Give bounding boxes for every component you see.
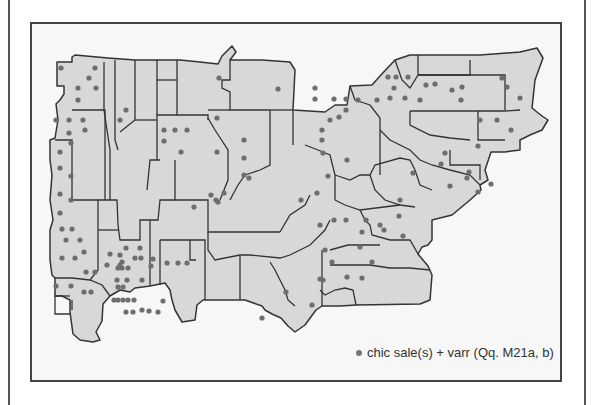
data-point: [359, 275, 364, 280]
data-point: [317, 276, 322, 281]
data-point: [58, 65, 63, 70]
data-point: [88, 289, 93, 294]
data-point: [120, 284, 125, 289]
data-point: [86, 75, 91, 80]
data-point: [120, 297, 125, 302]
data-point: [125, 265, 130, 270]
data-point: [69, 226, 74, 231]
data-point: [363, 217, 368, 222]
data-point: [359, 229, 364, 234]
data-point: [381, 227, 386, 232]
legend-text: chic sale(s) + varr (Qq. M21a, b): [367, 345, 554, 360]
data-point: [72, 255, 77, 260]
data-point: [298, 197, 303, 202]
data-point: [449, 87, 454, 92]
data-point: [329, 259, 334, 264]
data-point: [161, 127, 166, 132]
data-point: [125, 297, 130, 302]
data-point: [402, 95, 407, 100]
data-point: [319, 127, 324, 132]
data-point: [117, 252, 122, 257]
data-point: [447, 183, 452, 188]
data-point: [423, 82, 428, 87]
data-point: [92, 65, 97, 70]
data-point: [432, 81, 437, 86]
data-point: [184, 127, 189, 132]
data-point: [283, 289, 288, 294]
data-point: [343, 217, 348, 222]
data-point: [138, 255, 143, 260]
data-point: [259, 315, 264, 320]
data-point: [221, 190, 226, 195]
data-point: [68, 197, 73, 202]
data-point: [214, 149, 219, 154]
data-point: [517, 95, 522, 100]
data-point: [241, 172, 246, 177]
data-point: [75, 85, 80, 90]
data-point: [130, 309, 135, 314]
data-point: [458, 97, 463, 102]
data-point: [320, 150, 325, 155]
data-point: [111, 297, 116, 302]
data-point: [57, 149, 62, 154]
data-point: [504, 84, 509, 89]
data-point: [81, 249, 86, 254]
data-point: [117, 262, 122, 267]
data-point: [393, 74, 398, 79]
data-point: [68, 173, 73, 178]
data-point: [184, 260, 189, 265]
data-point: [499, 75, 504, 80]
data-point: [275, 86, 280, 91]
data-point: [123, 309, 128, 314]
data-point: [160, 298, 165, 303]
data-point: [146, 308, 151, 313]
legend-dot-icon: [356, 350, 362, 356]
data-point: [464, 175, 469, 180]
data-point: [317, 222, 322, 227]
data-point: [57, 165, 62, 170]
data-point: [75, 97, 80, 102]
data-point: [93, 85, 98, 90]
data-point: [81, 289, 86, 294]
data-point: [466, 169, 471, 174]
data-point: [92, 269, 97, 274]
data-point: [123, 107, 128, 112]
data-point: [178, 149, 183, 154]
data-point: [214, 115, 219, 120]
data-point: [344, 157, 349, 162]
data-point: [325, 173, 330, 178]
data-point: [208, 192, 213, 197]
data-point: [327, 117, 332, 122]
data-point: [494, 117, 499, 122]
data-point: [475, 189, 480, 194]
data-point: [132, 255, 137, 260]
data-point: [53, 117, 58, 122]
data-point: [57, 191, 62, 196]
data-point: [172, 127, 177, 132]
data-point: [438, 161, 443, 166]
data-point: [369, 259, 374, 264]
data-point: [442, 150, 447, 155]
data-point: [123, 245, 128, 250]
data-point: [343, 96, 348, 101]
data-point: [155, 309, 160, 314]
data-point: [115, 284, 120, 289]
data-point: [83, 269, 88, 274]
data-point: [397, 197, 402, 202]
data-point: [104, 262, 109, 267]
data-point: [215, 199, 220, 204]
data-point: [336, 114, 341, 119]
data-point: [312, 85, 317, 90]
data-point: [53, 283, 58, 288]
data-point: [410, 170, 415, 175]
data-point: [241, 137, 246, 142]
data-point: [477, 117, 482, 122]
data-point: [57, 210, 62, 215]
data-point: [309, 302, 314, 307]
data-point: [114, 277, 119, 282]
data-point: [139, 307, 144, 312]
data-point: [59, 255, 64, 260]
data-point: [377, 222, 382, 227]
data-point: [374, 97, 379, 102]
data-point: [63, 237, 68, 242]
